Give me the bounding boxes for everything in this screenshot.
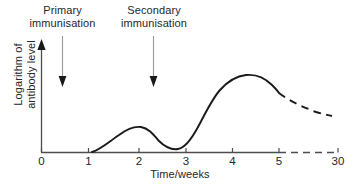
secondary-immunisation-label: Secondary immunisation [101,4,207,29]
x-axis-title: Time/weeks [110,168,250,180]
x-tick-label-4: 4 [221,155,245,167]
x-tick-label-30: 30 [326,155,350,167]
x-tick-label-1: 1 [77,155,101,167]
primary-immunisation-arrow [59,36,67,87]
x-tick-label-5: 5 [267,155,291,167]
y-axis-title: Logarithm of antibody level [12,15,37,135]
antibody-curve [92,75,332,152]
x-tick-label-2: 2 [127,155,151,167]
x-tick-label-0: 0 [30,155,54,167]
secondary-immunisation-arrow [150,36,158,87]
antibody-response-chart: Primary immunisation Secondary immunisat… [0,0,359,186]
x-axis-ticks [42,148,339,153]
x-tick-label-3: 3 [174,155,198,167]
y-axis [37,39,45,153]
